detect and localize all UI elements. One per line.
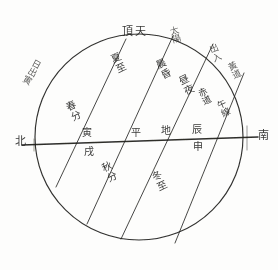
branch-shen-label: 申 (193, 142, 203, 152)
zenith-label: 頂天 (122, 26, 148, 37)
south-label: 南 (258, 130, 269, 141)
branch-yin-label: 寅 (82, 128, 92, 138)
horizon-line (22, 137, 258, 145)
branch-chen-label: 辰 (192, 125, 202, 135)
horizon-label-right: 地 (161, 126, 171, 136)
celestial-sphere-diagram: 北 南 頂天 平 地 寅 戌 辰 申 日出寅 太陽 出入 黃道 春分 秋分 夏至… (0, 0, 278, 270)
branch-xu-label: 戌 (84, 147, 94, 157)
north-label: 北 (15, 136, 26, 147)
horizon-label-left: 平 (131, 128, 141, 138)
